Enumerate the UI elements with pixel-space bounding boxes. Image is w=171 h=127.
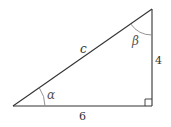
label-hypotenuse: c [80, 42, 87, 56]
label-angle-beta: β [131, 34, 139, 48]
right-triangle-diagram: c 4 6 α β [0, 0, 171, 127]
side-hypotenuse [13, 9, 152, 106]
right-angle-marker [145, 99, 152, 106]
label-vertical-side: 4 [155, 54, 162, 67]
label-angle-alpha: α [47, 88, 55, 102]
label-horizontal-side: 6 [79, 110, 86, 123]
angle-arc-alpha [39, 88, 45, 106]
